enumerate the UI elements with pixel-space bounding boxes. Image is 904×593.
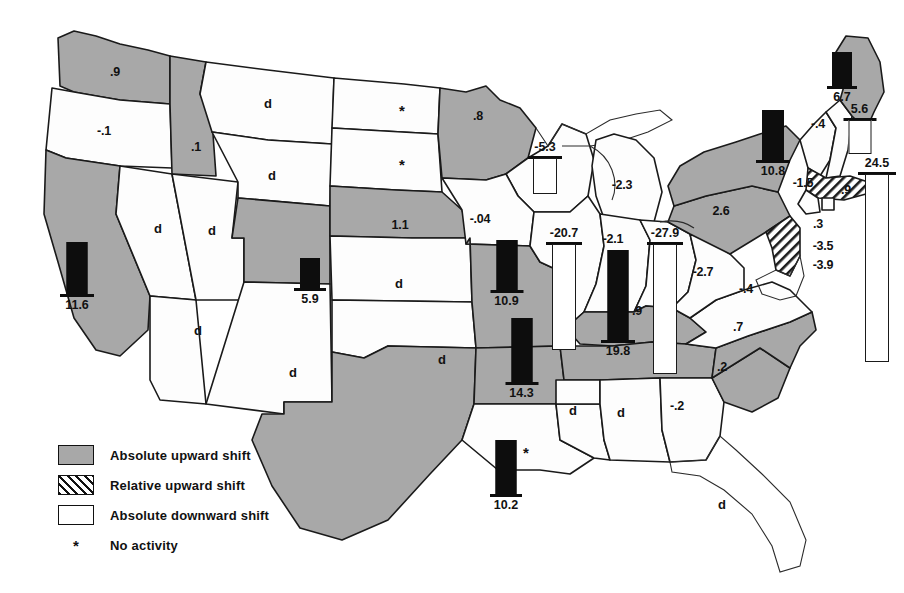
label-MN: .8 <box>473 109 483 123</box>
state-AL <box>600 378 670 462</box>
state-RI <box>822 198 834 210</box>
bar-value-NH: 5.6 <box>851 102 868 116</box>
legend-label-no-activity: No activity <box>110 538 178 553</box>
label-SC: .2 <box>717 360 727 374</box>
legend-label-absolute-upward: Absolute upward shift <box>110 448 251 463</box>
label-MT: d <box>264 96 272 111</box>
legend: Absolute upward shift Relative upward sh… <box>58 440 269 560</box>
bar-value-TX: 10.2 <box>494 498 518 512</box>
bar-value-CA: 11.6 <box>65 298 89 312</box>
bar-value-TN: 19.8 <box>606 344 630 358</box>
label-IA: -.04 <box>470 212 491 226</box>
label-WV: -2.7 <box>693 265 714 279</box>
state-AZ <box>150 296 206 404</box>
bar-TX: 10.2 <box>490 440 522 512</box>
label-WY: d <box>268 168 276 183</box>
bar-WI: -5.3 <box>528 142 562 198</box>
bar-TN: 19.8 <box>601 250 635 358</box>
legend-label-absolute-downward: Absolute downward shift <box>110 508 269 523</box>
legend-item-absolute-upward: Absolute upward shift <box>58 440 269 470</box>
label-RI: .9 <box>841 183 851 197</box>
legend-swatch-no-activity: * <box>58 537 94 554</box>
bar-value-AR: 14.3 <box>509 386 533 400</box>
label-GA: -.2 <box>670 399 684 413</box>
state-GA <box>660 378 724 462</box>
bar-CA: 11.6 <box>60 242 94 300</box>
bar-OH: -27.9 <box>647 228 683 378</box>
state-MS2 <box>556 380 600 404</box>
legend-swatch-relative-upward <box>58 475 94 495</box>
label-DE: -3.5 <box>813 239 834 253</box>
bar-value-ME: 6.7 <box>833 90 850 104</box>
bar-value-OH: -27.9 <box>651 226 680 240</box>
bar-AR: 14.3 <box>505 318 538 400</box>
legend-swatch-absolute-downward <box>58 505 94 525</box>
label-NE: 1.1 <box>392 218 409 232</box>
label-OK: d <box>438 352 446 367</box>
label-UT: d <box>208 223 216 238</box>
legend-item-absolute-downward: Absolute downward shift <box>58 500 269 530</box>
label-NV: d <box>154 221 162 236</box>
bar-NH: 5.6 <box>843 104 876 162</box>
state-SD <box>330 128 442 192</box>
bar-value-MO: 10.9 <box>494 294 518 308</box>
label-VA: -.4 <box>739 282 753 296</box>
bar-CO: 5.9 <box>294 258 326 304</box>
label-VT: -.4 <box>811 117 825 131</box>
bar-value-IL: -20.7 <box>550 226 579 240</box>
label-ND: * <box>399 103 405 118</box>
legend-item-no-activity: * No activity <box>58 530 269 560</box>
label-MI: -2.3 <box>612 178 633 192</box>
label-AZ: d <box>194 323 202 338</box>
us-map-figure: .9 -.1 .1 d * * .8 -2.3 d d d 1.1 -.04 -… <box>0 0 904 593</box>
label-IN: -2.1 <box>603 232 624 246</box>
bar-NY: 10.8 <box>756 110 790 178</box>
bar-value-CT: 24.5 <box>865 156 889 170</box>
label-MS: d <box>569 403 577 418</box>
bar-ME: 6.7 <box>827 52 857 104</box>
label-MA: -1.5 <box>793 176 814 190</box>
label-MD: -3.9 <box>813 258 834 272</box>
state-TN <box>560 342 716 380</box>
label-FL: d <box>718 497 726 512</box>
bar-value-CO: 5.9 <box>301 292 318 306</box>
label-OR: -.1 <box>97 124 111 138</box>
bar-MO: 10.9 <box>490 240 523 308</box>
label-AL: d <box>617 405 625 420</box>
label-WA: .9 <box>110 65 120 79</box>
label-NJ: .3 <box>813 217 823 231</box>
bar-value-WI: -5.3 <box>534 140 556 154</box>
label-LA: * <box>523 445 529 460</box>
bar-value-NY: 10.8 <box>761 164 785 178</box>
label-NM: d <box>289 365 297 380</box>
state-ND <box>332 78 440 134</box>
state-KS <box>330 236 472 302</box>
label-KS: d <box>395 276 403 291</box>
legend-item-relative-upward: Relative upward shift <box>58 470 269 500</box>
legend-swatch-absolute-upward <box>58 445 94 465</box>
legend-label-relative-upward: Relative upward shift <box>110 478 245 493</box>
label-PA: 2.6 <box>713 204 730 218</box>
label-NC: .7 <box>733 320 743 334</box>
bar-CT: 24.5 <box>858 158 896 382</box>
label-SD: * <box>399 157 405 172</box>
label-ID: .1 <box>191 140 201 154</box>
bar-IL: -20.7 <box>546 228 582 354</box>
